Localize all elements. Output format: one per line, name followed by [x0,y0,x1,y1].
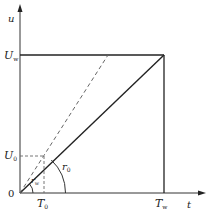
r0-label: r0 [62,161,71,173]
x-axis-arrow-icon [198,191,206,196]
uw-label: Uw [4,49,19,62]
t0-label: T0 [37,197,48,210]
ramp-line-solid [20,55,164,193]
y-axis-arrow-icon [18,4,23,12]
ramp-line-dashed [20,55,108,193]
x-axis-label: t [187,199,192,210]
tw-label: Tw [155,197,168,210]
y-axis-label: u [8,13,14,24]
rw-angle-arc [30,184,34,193]
origin-label: 0 [8,188,14,199]
u0-label: U0 [4,149,17,162]
voltage-time-diagram: u t 0 Uw U0 T0 Tw r0 rw [0,0,215,214]
